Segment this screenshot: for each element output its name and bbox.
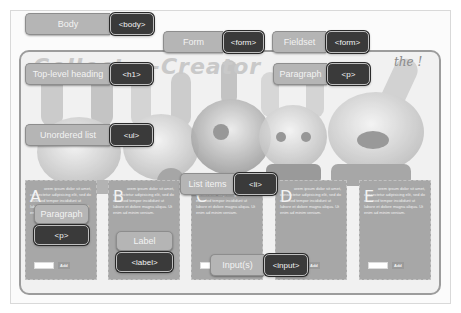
- card-text: orem ipsum dolor sit amet, consectetur a…: [364, 186, 426, 216]
- annotation-tag: <p>: [327, 63, 370, 85]
- annotation-tag: <label>: [116, 252, 173, 272]
- annotation-tag: <form>: [326, 31, 369, 53]
- annotation-paragraph-top: Paragraph <p>: [273, 63, 370, 85]
- annotation-tag: <p>: [34, 225, 89, 245]
- annotation-label-element: Label <label>: [116, 231, 173, 272]
- add-button[interactable]: Add: [58, 262, 70, 269]
- annotation-label: Label: [116, 231, 173, 251]
- annotation-label: Input(s): [210, 254, 264, 276]
- list-item: E orem ipsum dolor sit amet, consectetur…: [359, 180, 431, 280]
- annotation-label: List items: [180, 173, 234, 195]
- annotation-tag: <input>: [264, 254, 308, 276]
- annotation-li: List items <li>: [180, 173, 277, 195]
- annotation-tag: <ul>: [110, 124, 153, 146]
- add-button[interactable]: Add: [392, 262, 404, 269]
- card-text: orem ipsum dolor sit amet, consectetur a…: [113, 186, 175, 216]
- annotation-label: Paragraph: [34, 204, 89, 224]
- annotation-label: Unordered list: [25, 124, 110, 146]
- add-input[interactable]: [368, 262, 388, 269]
- annotation-form: Form <form>: [163, 31, 264, 53]
- annotation-tag: <form>: [223, 31, 264, 53]
- annotation-ul: Unordered list <ul>: [25, 124, 153, 146]
- annotation-label: Fieldset: [272, 31, 326, 53]
- annotation-label: Top-level heading: [25, 63, 110, 85]
- annotation-tag: <li>: [234, 173, 277, 195]
- add-input[interactable]: [34, 262, 54, 269]
- annotation-label: Body: [25, 13, 110, 35]
- annotation-h1: Top-level heading <h1>: [25, 63, 153, 85]
- toy-figure-4: [259, 70, 327, 184]
- annotation-label: Paragraph: [273, 63, 327, 85]
- annotation-tag: <h1>: [110, 63, 153, 85]
- handwritten-note: the !: [394, 57, 422, 68]
- annotation-body: Body <body>: [25, 13, 154, 35]
- annotation-fieldset: Fieldset <form>: [272, 31, 369, 53]
- annotation-tag: <body>: [110, 13, 154, 35]
- add-button[interactable]: Add: [308, 262, 320, 269]
- card-text: orem ipsum dolor sit amet, consectetur a…: [280, 186, 342, 216]
- annotation-input: Input(s) <input>: [210, 254, 308, 276]
- annotation-paragraph-card: Paragraph <p>: [34, 204, 89, 245]
- annotation-label: Form: [163, 31, 223, 53]
